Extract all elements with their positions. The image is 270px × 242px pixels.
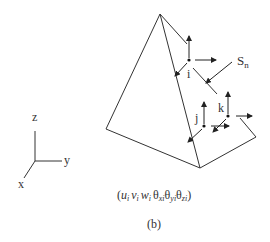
axis-x-label: x [18,177,24,191]
tetrahedron-element [106,14,256,168]
figure-caption: (b) [147,217,161,231]
surface-label: Sn [237,53,249,70]
axis-z-label: z [32,110,37,124]
dof-label: (uiviwiθxiθyiθzi) [117,188,191,203]
node-j-label: j [194,111,198,125]
coordinate-axes [24,131,62,178]
node-i-label: i [187,67,191,81]
diagram-canvas: i Sn k j z y x (uiviwiθxiθyiθzi) (b) [0,0,270,242]
axis-y-label: y [64,153,70,167]
surface-pointer-arrow [206,62,232,83]
node-k-label: k [218,101,224,115]
